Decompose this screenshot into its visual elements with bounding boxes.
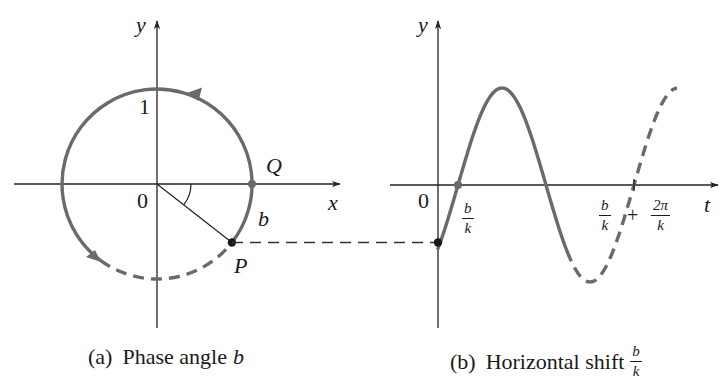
fraction-numerator: b [630, 344, 642, 362]
axis-label-y-a: y [136, 14, 146, 36]
fraction-numerator: b [462, 201, 474, 219]
arc-length-label-b: b [258, 208, 269, 230]
origin-label-a: 0 [137, 190, 148, 212]
angle-arc [184, 184, 191, 205]
fraction-denominator: k [657, 216, 664, 233]
origin-label-b: 0 [418, 190, 429, 212]
sinusoid-solid [438, 88, 567, 251]
shift-fraction-b-over-k: b k [462, 201, 474, 236]
axis-label-t: t [704, 194, 710, 216]
period-fraction-2pi-over-k: 2π k [651, 198, 670, 233]
caption-b-fraction: b k [630, 344, 642, 379]
panel-b-sinusoid [390, 21, 718, 328]
fraction-denominator: k [601, 216, 608, 233]
axis-label-y-b: y [418, 14, 428, 36]
circle-dashed-arc [101, 243, 232, 280]
caption-b: (b) Horizontal shift b k [450, 344, 642, 379]
caption-a-var: b [233, 344, 244, 370]
plus-sign: + [627, 205, 638, 225]
caption-b-tag: (b) [450, 349, 476, 375]
point-P-label: P [234, 255, 247, 277]
radius-to-P [157, 184, 232, 243]
fraction-denominator: k [633, 362, 640, 379]
caption-a-text: Phase angle [122, 344, 226, 370]
axis-label-x: x [328, 192, 338, 214]
caption-a: (a) Phase angle b [88, 344, 244, 370]
point-Q [248, 180, 256, 188]
caption-a-tag: (a) [88, 344, 112, 370]
fraction-numerator: 2π [651, 198, 670, 216]
shift-point [454, 181, 462, 189]
point-Q-label: Q [266, 155, 282, 177]
y-tick-label-1: 1 [139, 96, 150, 118]
initial-point [434, 238, 442, 246]
caption-b-text: Horizontal shift [486, 349, 625, 375]
panel-a-unit-circle [14, 21, 340, 328]
fraction-denominator: k [464, 219, 471, 236]
period-fraction-b-over-k: b k [599, 198, 611, 233]
fraction-numerator: b [599, 198, 611, 216]
phase-shift-figure [0, 0, 728, 386]
